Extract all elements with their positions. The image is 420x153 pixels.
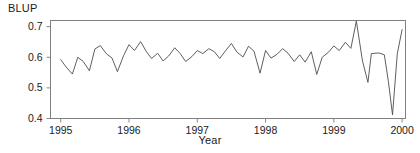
data-series-line <box>61 21 402 115</box>
line-chart-plot: 0.40.50.60.7 199519961997199819992000 <box>0 0 420 153</box>
y-tick-label: 0.4 <box>28 112 43 124</box>
y-tick-label-group: 0.40.50.60.7 <box>28 20 43 124</box>
plot-frame <box>51 21 406 119</box>
x-tick-mark-group <box>61 119 402 123</box>
y-tick-label: 0.6 <box>28 51 43 63</box>
y-tick-label: 0.5 <box>28 81 43 93</box>
chart-figure: BLUP 0.40.50.60.7 1995199619971998199920… <box>0 0 420 153</box>
y-tick-label: 0.7 <box>28 20 43 32</box>
y-tick-mark-group <box>47 27 51 119</box>
x-axis-label: Year <box>0 134 420 146</box>
